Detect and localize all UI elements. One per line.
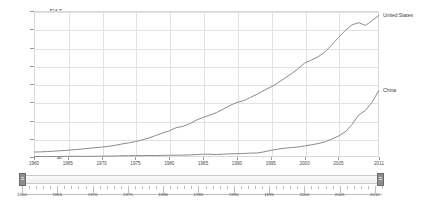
x-axis-tick-mark bbox=[203, 157, 204, 160]
slider-minor-tick bbox=[248, 186, 249, 189]
line-chart: $16 T$14 T$12 T$10 T$8 T$6 T$4 T$2 T$0 U… bbox=[0, 0, 442, 172]
x-axis-tick-mark bbox=[68, 157, 69, 160]
x-axis-tick-label: 1980 bbox=[164, 161, 174, 166]
slider-tick-label: 1990 bbox=[229, 192, 239, 197]
series-line-china bbox=[34, 90, 379, 156]
slider-minor-tick bbox=[241, 186, 242, 189]
slider-minor-tick bbox=[156, 186, 157, 189]
series-label-united-states: United States bbox=[383, 12, 413, 18]
slider-minor-tick bbox=[71, 186, 72, 189]
slider-minor-tick bbox=[121, 186, 122, 189]
slider-minor-tick bbox=[311, 186, 312, 189]
slider-minor-tick bbox=[382, 186, 383, 189]
slider-tick-label: 2010 bbox=[370, 192, 380, 197]
x-axis-tick-label: 1975 bbox=[130, 161, 140, 166]
slider-minor-tick bbox=[354, 186, 355, 189]
slider-minor-tick bbox=[43, 186, 44, 189]
slider-minor-tick bbox=[170, 186, 171, 189]
x-axis-tick-mark bbox=[305, 157, 306, 160]
slider-tick-label: 1965 bbox=[52, 192, 62, 197]
x-axis-tick-label: 1995 bbox=[266, 161, 276, 166]
x-axis-tick-mark bbox=[169, 157, 170, 160]
x-axis-tick-label: 2005 bbox=[333, 161, 343, 166]
x-axis-tick-mark bbox=[237, 157, 238, 160]
slider-tick-label: 1985 bbox=[194, 192, 204, 197]
slider-minor-tick bbox=[262, 186, 263, 189]
gdp-comparison-widget: $16 T$14 T$12 T$10 T$8 T$6 T$4 T$2 T$0 U… bbox=[0, 0, 442, 202]
x-axis-tick-label: 2000 bbox=[299, 161, 309, 166]
slider-minor-tick bbox=[347, 186, 348, 189]
series-label-china: China bbox=[383, 87, 396, 93]
slider-minor-tick bbox=[227, 186, 228, 189]
slider-tick-label: 2005 bbox=[335, 192, 345, 197]
x-axis-tick-label: 2011 bbox=[374, 161, 384, 166]
x-axis-tick-label: 1985 bbox=[198, 161, 208, 166]
slider-tick-label: 1960 bbox=[17, 192, 27, 197]
slider-minor-tick bbox=[149, 186, 150, 189]
x-axis-tick-mark bbox=[135, 157, 136, 160]
slider-minor-tick bbox=[142, 186, 143, 189]
slider-minor-tick bbox=[177, 186, 178, 189]
slider-minor-tick bbox=[135, 186, 136, 189]
slider-minor-tick bbox=[318, 186, 319, 189]
slider-minor-tick bbox=[361, 186, 362, 189]
slider-track-fill bbox=[23, 176, 381, 183]
slider-minor-tick bbox=[333, 186, 334, 189]
slider-tick-label: 1975 bbox=[123, 192, 133, 197]
slider-minor-tick bbox=[86, 186, 87, 189]
x-axis-tick-label: 1960 bbox=[29, 161, 39, 166]
x-axis-tick-mark bbox=[379, 157, 380, 160]
slider-tick-label: 1980 bbox=[158, 192, 168, 197]
slider-minor-tick bbox=[326, 186, 327, 189]
x-axis-tick-label: 1990 bbox=[232, 161, 242, 166]
series-line-united-states bbox=[34, 15, 379, 152]
x-axis-tick-mark bbox=[271, 157, 272, 160]
slider-minor-tick bbox=[297, 186, 298, 189]
year-range-slider[interactable]: 1960196519701975198019851990199520002005… bbox=[0, 172, 442, 202]
slider-tick-label: 1995 bbox=[264, 192, 274, 197]
slider-minor-tick bbox=[283, 186, 284, 189]
slider-minor-tick bbox=[78, 186, 79, 189]
slider-scale: 1960196519701975198019851990199520002005… bbox=[22, 186, 382, 195]
x-axis-tick-label: 1965 bbox=[63, 161, 73, 166]
slider-minor-tick bbox=[191, 186, 192, 189]
slider-minor-tick bbox=[184, 186, 185, 189]
slider-minor-tick bbox=[290, 186, 291, 189]
slider-left-handle[interactable] bbox=[19, 173, 26, 186]
slider-minor-tick bbox=[100, 186, 101, 189]
slider-minor-tick bbox=[36, 186, 37, 189]
slider-right-handle[interactable] bbox=[377, 173, 384, 186]
slider-minor-tick bbox=[206, 186, 207, 189]
x-axis-tick-mark bbox=[102, 157, 103, 160]
slider-minor-tick bbox=[368, 186, 369, 189]
slider-minor-tick bbox=[213, 186, 214, 189]
slider-minor-tick bbox=[276, 186, 277, 189]
slider-track[interactable] bbox=[22, 175, 382, 184]
slider-minor-tick bbox=[50, 186, 51, 189]
x-axis-tick-mark bbox=[338, 157, 339, 160]
slider-tick-label: 2000 bbox=[299, 192, 309, 197]
x-axis-tick-mark bbox=[34, 157, 35, 160]
slider-tick-label: 1970 bbox=[88, 192, 98, 197]
slider-minor-tick bbox=[64, 186, 65, 189]
slider-minor-tick bbox=[114, 186, 115, 189]
series-lines bbox=[34, 11, 379, 157]
slider-minor-tick bbox=[107, 186, 108, 189]
slider-minor-tick bbox=[255, 186, 256, 189]
slider-minor-tick bbox=[29, 186, 30, 189]
slider-minor-tick bbox=[220, 186, 221, 189]
x-axis-tick-label: 1970 bbox=[97, 161, 107, 166]
